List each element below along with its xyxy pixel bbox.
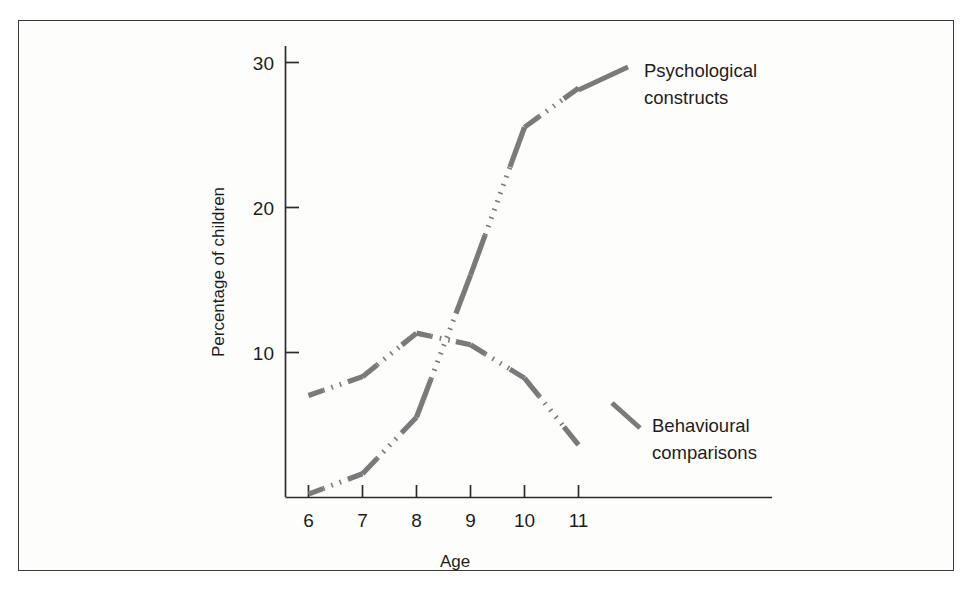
series-behavioural-comparisons (309, 333, 579, 445)
y-tick-label-10: 10 (253, 343, 274, 364)
series-psychological-constructs (309, 88, 579, 494)
x-tick-label-10: 10 (514, 510, 535, 531)
series-behavioural-comparisons-solid-0b (348, 377, 363, 382)
series-behavioural-comparisons-solid-4b (564, 427, 579, 445)
series-psychological-constructs-solid-1a (363, 459, 378, 474)
label-psychological-constructs-line1: Psychological (644, 60, 757, 81)
series-behavioural-comparisons-solid-0a (309, 390, 324, 395)
series-behavioural-comparisons-dotted-1 (377, 345, 402, 365)
series-psychological-constructs-solid-4b (564, 88, 579, 99)
series-behavioural-comparisons-solid-4a (525, 378, 540, 396)
series-behavioural-comparisons-dotted-0 (323, 382, 348, 391)
line-chart-svg: 30 20 10 6 7 8 9 10 11 Age Percentage of… (0, 0, 972, 602)
label-behavioural-comparisons-line2: comparisons (652, 442, 757, 463)
series-behavioural-comparisons-solid-1a (363, 365, 378, 377)
series-psychological-constructs-solid-0a (309, 489, 324, 494)
series-psychological-constructs-dotted-2 (431, 314, 456, 379)
annotation-leaders (579, 67, 641, 428)
series-psychological-constructs-dotted-3 (485, 167, 510, 235)
x-tick-label-11: 11 (569, 510, 589, 531)
series-behavioural-comparisons-solid-3a (471, 345, 486, 354)
leader-behavioural-comparisons (612, 403, 640, 428)
chart-plot-area: 30 20 10 6 7 8 9 10 11 Age Percentage of… (0, 0, 972, 602)
x-tick-label-9: 9 (465, 510, 476, 531)
y-tick-group (286, 63, 299, 353)
series-behavioural-comparisons-dotted-2 (431, 336, 456, 341)
y-axis-title: Percentage of children (209, 187, 228, 357)
series-psychological-constructs-solid-2b (456, 275, 471, 313)
x-tick-label-7: 7 (357, 510, 368, 531)
series-behavioural-comparisons-solid-3b (510, 369, 525, 378)
x-tick-group (309, 485, 579, 497)
y-tick-label-20: 20 (253, 198, 274, 219)
series-psychological-constructs-solid-1b (402, 417, 417, 432)
series-psychological-constructs-solid-2a (417, 379, 432, 417)
figure-root: 30 20 10 6 7 8 9 10 11 Age Percentage of… (0, 0, 972, 602)
series-behavioural-comparisons-solid-2a (417, 333, 432, 336)
x-axis-title: Age (440, 552, 470, 571)
x-tick-label-6: 6 (303, 510, 314, 531)
series-psychological-constructs-solid-3b (510, 127, 525, 167)
series-psychological-constructs-solid-0b (348, 474, 363, 479)
series-behavioural-comparisons-dotted-4 (539, 396, 564, 427)
series-psychological-constructs-dotted-1 (377, 433, 402, 459)
series-behavioural-comparisons-dotted-3 (485, 354, 510, 369)
series-behavioural-comparisons-solid-1b (402, 333, 417, 345)
series-behavioural-comparisons-solid-2b (456, 342, 471, 345)
series-psychological-constructs-dotted-4 (539, 99, 564, 117)
x-tick-label-8: 8 (411, 510, 422, 531)
label-behavioural-comparisons-line1: Behavioural (652, 415, 750, 436)
series-psychological-constructs-solid-3a (471, 235, 486, 275)
series-psychological-constructs-solid-4a (525, 117, 540, 128)
label-psychological-constructs-line2: constructs (644, 87, 728, 108)
leader-psychological-constructs (579, 67, 629, 90)
y-tick-label-30: 30 (253, 53, 274, 74)
series-psychological-constructs-dotted-0 (323, 479, 348, 488)
